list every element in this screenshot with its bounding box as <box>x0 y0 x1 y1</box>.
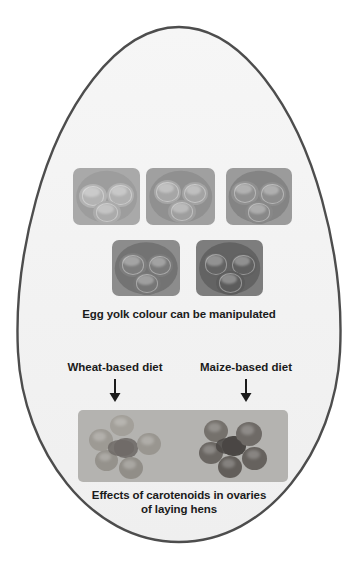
follicle-highlight <box>93 432 105 441</box>
yolk <box>93 201 121 224</box>
yolk-highlight <box>151 257 166 267</box>
yolk-caption: Egg yolk colour can be manipulated <box>39 308 319 321</box>
arrow-wheat <box>107 379 123 403</box>
yolk-panel-2 <box>146 168 215 225</box>
arrow-down-icon <box>107 379 123 403</box>
follicle-highlight <box>123 460 135 469</box>
yolk-highlight <box>206 255 222 266</box>
follicle <box>119 457 143 479</box>
follicle-highlight <box>241 425 255 435</box>
yolk-panel-5 <box>196 240 263 296</box>
follicle-highlight <box>247 450 260 459</box>
yolk-highlight <box>172 203 188 213</box>
ovary-photo-panel <box>78 410 288 482</box>
yolk-panel-1 <box>73 168 140 225</box>
follicle <box>218 456 242 478</box>
follicle-highlight <box>208 423 220 432</box>
follicle-highlight <box>203 445 215 454</box>
arrow-maize <box>238 379 254 403</box>
yolk <box>216 271 245 295</box>
yolk-highlight <box>249 204 265 214</box>
follicle <box>137 433 161 455</box>
ovary-stroma <box>108 440 134 456</box>
ovary-caption-line-1: Effects of carotenoids in ovaries <box>39 489 319 502</box>
ovary-stroma <box>216 438 242 454</box>
yolk-highlight <box>97 204 113 214</box>
ovary-cluster-maize <box>196 416 282 480</box>
yolk-highlight <box>186 185 201 195</box>
ovary-cluster-wheat <box>84 414 172 480</box>
diet-label-maize: Maize-based diet <box>186 361 306 373</box>
yolk <box>245 201 273 224</box>
egg-infographic: Egg yolk colour can be manipulated Wheat… <box>0 0 358 573</box>
follicle <box>110 415 134 436</box>
yolk-highlight <box>137 275 153 285</box>
ovary-caption-line-2: of laying hens <box>39 503 319 516</box>
yolk-panel-4 <box>112 240 180 296</box>
diet-label-wheat: Wheat-based diet <box>55 361 175 373</box>
yolk-panel-3 <box>226 168 292 225</box>
follicle-highlight <box>222 459 234 468</box>
follicle-highlight <box>141 436 153 445</box>
follicle <box>242 447 267 470</box>
yolk <box>133 272 161 295</box>
follicle-highlight <box>114 418 126 426</box>
follicle-highlight <box>99 453 111 461</box>
yolk <box>168 200 196 223</box>
arrow-down-icon <box>238 379 254 403</box>
